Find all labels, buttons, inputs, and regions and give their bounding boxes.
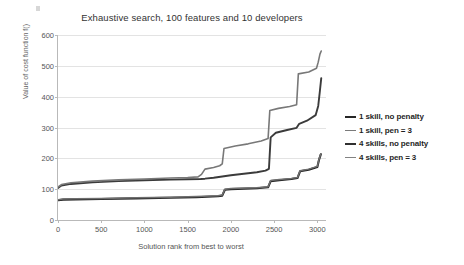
x-tick-mark xyxy=(317,220,318,223)
y-tick-label: 400 xyxy=(41,92,54,101)
x-tick-label: 0 xyxy=(56,225,60,234)
y-tick-label: 500 xyxy=(41,61,54,70)
scan-artifact-mark xyxy=(36,6,40,11)
series-line xyxy=(58,78,321,188)
x-tick-mark xyxy=(101,220,102,223)
x-tick-label: 3000 xyxy=(309,225,326,234)
y-axis-title: Value of cost function f() xyxy=(22,0,29,132)
x-tick-mark xyxy=(188,220,189,223)
legend-line-swatch xyxy=(345,143,356,145)
y-tick-label: 300 xyxy=(41,123,54,132)
x-tick-mark xyxy=(231,220,232,223)
legend-line-swatch xyxy=(345,157,356,158)
legend-item: 1 skill, pen = 3 xyxy=(345,126,463,135)
chart-screenshot: Exhaustive search, 100 features and 10 d… xyxy=(0,0,464,265)
x-tick-label: 1000 xyxy=(136,225,153,234)
plot-area: 0100200300400500600 05001000150020002500… xyxy=(57,35,326,221)
x-tick-label: 2500 xyxy=(266,225,283,234)
legend-item-label: 4 skills, no penalty xyxy=(359,139,428,148)
x-axis-title: Solution rank from best to worst xyxy=(57,242,325,251)
x-tick-label: 2000 xyxy=(223,225,240,234)
legend-item-label: 1 skill, no penalty xyxy=(359,112,424,121)
legend-item: 4 skills, no penalty xyxy=(345,139,463,148)
x-tick-label: 1500 xyxy=(179,225,196,234)
legend-item: 1 skill, no penalty xyxy=(345,112,463,121)
series-line xyxy=(58,51,321,187)
x-tick-mark xyxy=(58,220,59,223)
series-lines xyxy=(58,35,326,220)
y-tick-label: 200 xyxy=(41,154,54,163)
legend-item-label: 4 skills, pen = 3 xyxy=(359,153,416,162)
chart-title: Exhaustive search, 100 features and 10 d… xyxy=(57,12,327,23)
y-tick-label: 600 xyxy=(41,31,54,40)
chart-legend: 1 skill, no penalty1 skill, pen = 34 ski… xyxy=(345,112,463,166)
x-tick-label: 500 xyxy=(95,225,108,234)
legend-line-swatch xyxy=(345,116,356,118)
y-tick-label: 100 xyxy=(41,185,54,194)
x-tick-mark xyxy=(274,220,275,223)
legend-item-label: 1 skill, pen = 3 xyxy=(359,126,412,135)
legend-item: 4 skills, pen = 3 xyxy=(345,153,463,162)
x-tick-mark xyxy=(144,220,145,223)
legend-line-swatch xyxy=(345,130,356,131)
y-tick-label: 0 xyxy=(50,216,54,225)
